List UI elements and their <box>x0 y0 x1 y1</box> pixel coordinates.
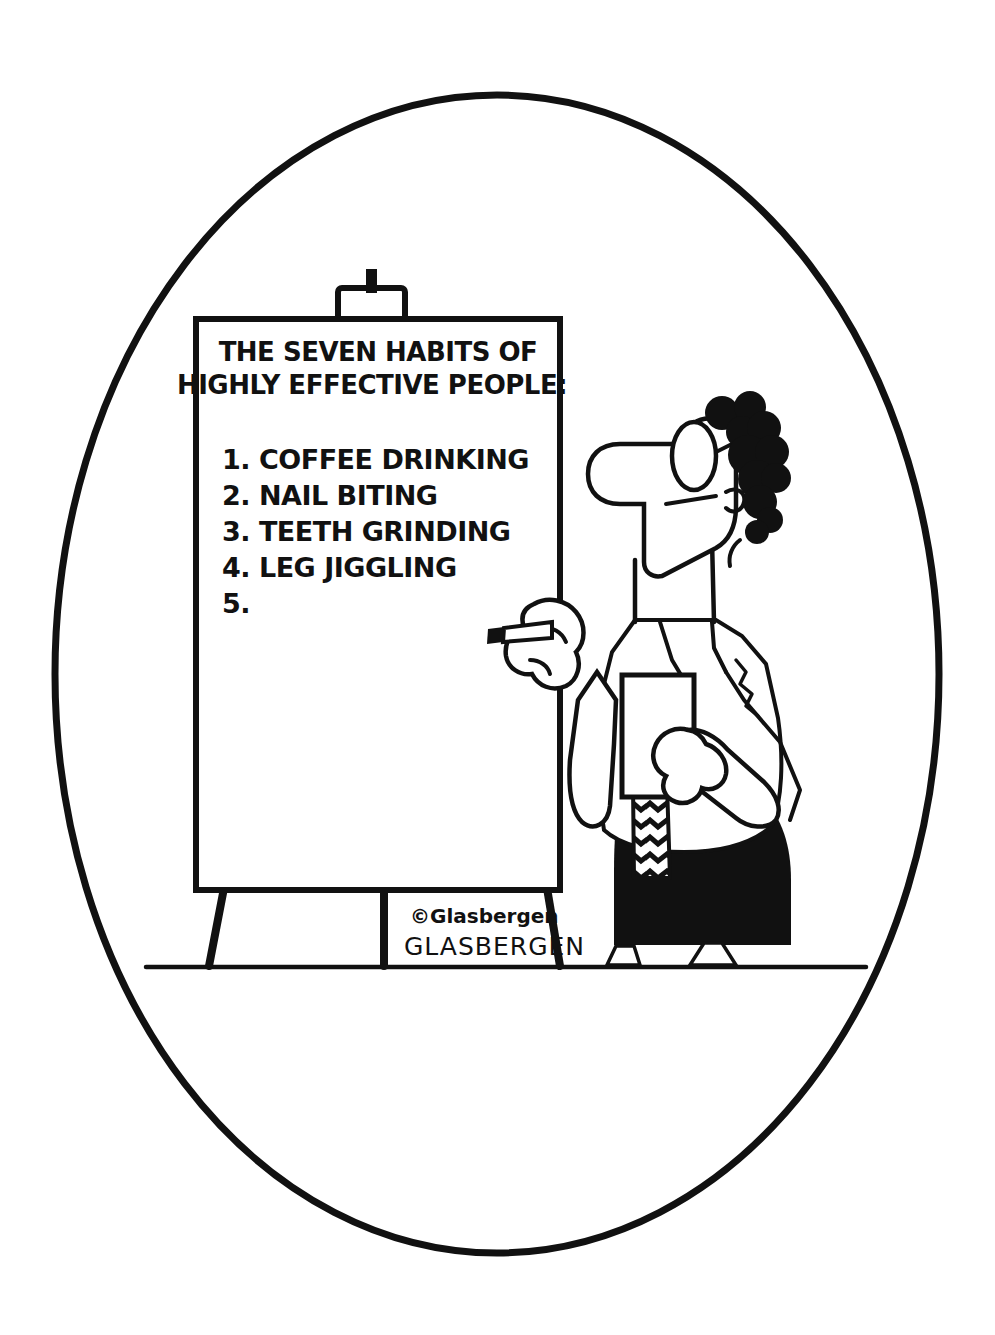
flipchart-title-line-2: HIGHLY EFFECTIVE PEOPLE: <box>177 370 567 400</box>
flipchart-title-line-1: THE SEVEN HABITS OF <box>219 337 538 367</box>
flipchart-item-5: 5. <box>222 588 250 619</box>
cartoon-artwork: THE SEVEN HABITS OF HIGHLY EFFECTIVE PEO… <box>0 0 995 1335</box>
flipchart-item-4: 4. LEG JIGGLING <box>222 552 457 583</box>
flipchart-item-1: 1. COFFEE DRINKING <box>222 444 529 475</box>
copyright-signature: ©Glasbergen <box>410 904 559 928</box>
flipchart-item-2: 2. NAIL BITING <box>222 480 437 511</box>
flipchart-paper <box>196 319 560 890</box>
handwritten-signature: GLASBERGEN <box>404 932 585 961</box>
cartoon-panel: THE SEVEN HABITS OF HIGHLY EFFECTIVE PEO… <box>0 0 995 1335</box>
flipchart-item-3: 3. TEETH GRINDING <box>222 516 510 547</box>
eyeglass-lens <box>672 422 716 490</box>
